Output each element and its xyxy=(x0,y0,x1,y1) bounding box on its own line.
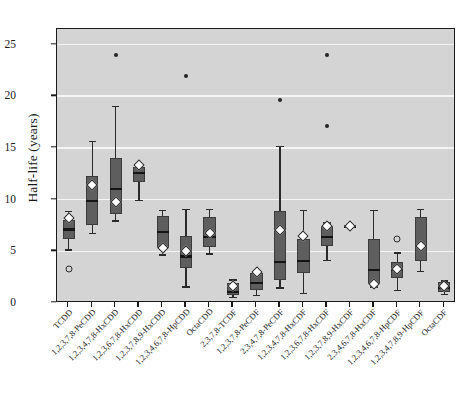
y-tick-mark-5 xyxy=(51,250,56,251)
y-tick-mark-0 xyxy=(51,301,56,302)
y-tick-label-15: 15 xyxy=(0,141,16,153)
x-tick-mark-2 xyxy=(114,302,115,307)
boxplot-chart: Half-life (years) 0510152025TCDD1,2,3,7,… xyxy=(0,0,475,405)
x-tick-mark-3 xyxy=(137,302,138,307)
y-tick-label-0: 0 xyxy=(0,296,16,308)
x-tick-mark-1 xyxy=(91,302,92,307)
y-tick-mark-25 xyxy=(51,43,56,44)
x-tick-mark-13 xyxy=(372,302,373,307)
x-tick-mark-8 xyxy=(255,302,256,307)
y-tick-label-25: 25 xyxy=(0,38,16,50)
x-tick-mark-4 xyxy=(161,302,162,307)
x-tick-mark-11 xyxy=(325,302,326,307)
x-tick-mark-16 xyxy=(443,302,444,307)
plot-area xyxy=(56,28,455,302)
box-plot-series xyxy=(57,29,455,302)
x-tick-mark-14 xyxy=(396,302,397,307)
y-tick-mark-20 xyxy=(51,95,56,96)
y-tick-mark-10 xyxy=(51,198,56,199)
x-tick-mark-15 xyxy=(419,302,420,307)
y-axis-title: Half-life (years) xyxy=(25,63,41,253)
whisker-cap-lower xyxy=(441,294,448,295)
y-tick-label-5: 5 xyxy=(0,244,16,256)
y-tick-label-20: 20 xyxy=(0,89,16,101)
y-tick-mark-15 xyxy=(51,146,56,147)
y-tick-label-10: 10 xyxy=(0,193,16,205)
